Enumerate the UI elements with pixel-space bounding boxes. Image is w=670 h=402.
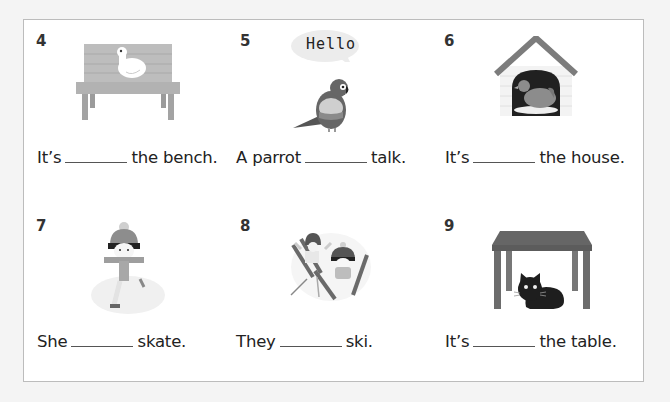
sentence: Sheskate. [37, 332, 186, 351]
hen-in-house-icon [494, 36, 578, 120]
item-number: 9 [444, 217, 454, 235]
exercise-item-4: 4 It’sthe bench. [24, 20, 224, 190]
item-number: 5 [240, 32, 250, 50]
item-number: 8 [240, 217, 250, 235]
answer-blank[interactable] [65, 148, 127, 163]
answer-blank[interactable] [473, 332, 535, 347]
item-number: 4 [36, 32, 46, 50]
duck-on-bench-icon [74, 42, 184, 124]
exercise-item-9: 9 It’sthe table. [432, 205, 632, 375]
answer-blank[interactable] [280, 332, 342, 347]
item-number: 7 [36, 217, 46, 235]
parrot-icon [291, 72, 361, 134]
item-number: 6 [444, 32, 454, 50]
exercise-item-7: 7 Sheskate. [24, 205, 224, 375]
girl-skating-icon [90, 221, 166, 315]
children-skiing-icon [285, 229, 377, 303]
worksheet-frame: 4 It’sthe bench. 5 Hello [23, 19, 644, 382]
exercise-item-8: 8 Theyski. [229, 205, 429, 375]
exercise-item-5: 5 Hello A parrottalk. [229, 20, 429, 190]
cat-under-table-icon [490, 231, 594, 311]
answer-blank[interactable] [71, 332, 133, 347]
speech-text: Hello [306, 35, 356, 53]
sentence: It’sthe table. [445, 332, 617, 351]
answer-blank[interactable] [473, 148, 535, 163]
answer-blank[interactable] [305, 148, 367, 163]
sentence: Theyski. [236, 332, 373, 351]
exercise-item-6: 6 It’sthe house. [432, 20, 632, 190]
sentence: It’sthe house. [445, 148, 625, 167]
sentence: A parrottalk. [236, 148, 406, 167]
sentence: It’sthe bench. [37, 148, 218, 167]
